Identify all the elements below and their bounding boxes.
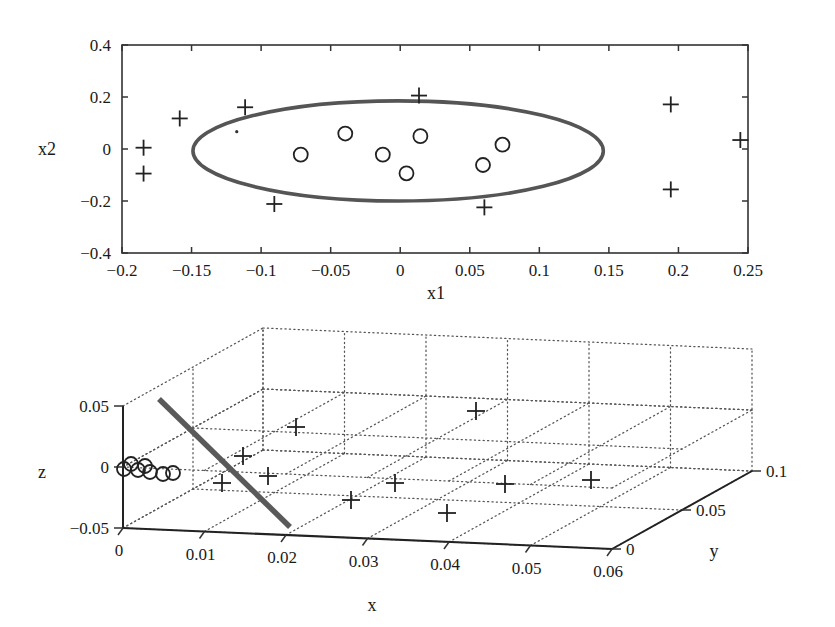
outlier-marker-plus-3d [342,491,360,509]
plot-frame [122,45,748,253]
y-tick-label-3d: 0 [626,540,635,559]
outlier-marker-plus [136,166,152,182]
z-tick-label-3d: 0.05 [79,397,109,416]
x-axis-tick-labels: −0.2−0.15−0.1−0.0500.050.10.150.20.25 [107,261,763,280]
x-tick-label-3d: 0.05 [512,559,542,578]
x-tick-label: −0.15 [172,261,211,280]
x-tick-label: 0.25 [733,261,763,280]
inlier-marker-circle [294,148,308,162]
y-axis-tick-labels: −0.4−0.200.20.4 [80,36,111,263]
x-tick-label: −0.05 [311,261,350,280]
y-tick-label: 0.4 [90,36,112,55]
x-tick-mark-3d [444,542,449,549]
y-tick-label: −0.2 [80,192,111,211]
x-tick-mark-3d [363,539,368,546]
x-tick-mark-3d [526,546,531,553]
data-markers [136,88,749,216]
x-tick-label: 0 [396,261,405,280]
outlier-marker-plus-3d [287,418,305,436]
x-axis-title: x1 [427,283,445,303]
y-axis-title: x2 [38,139,56,159]
grid-floor-line-x [531,468,671,546]
top-2d-scatter-plot: −0.2−0.15−0.1−0.0500.050.10.150.20.25 −0… [38,36,763,303]
x-tick-mark-3d [607,549,612,556]
outlier-marker-plus-3d [496,475,514,493]
y-tick-label: 0.2 [90,88,111,107]
inlier-marker-circle-3d [166,466,180,480]
inlier-marker-circle [495,138,509,152]
figure-container: −0.2−0.15−0.1−0.0500.050.10.150.20.25 −0… [0,0,835,627]
outlier-marker-plus-3d [386,474,404,492]
x-tick-label-3d: 0.02 [267,548,297,567]
z-tick-label-3d: 0 [101,458,110,477]
stray-dot-marker [235,130,238,133]
outlier-marker-plus-3d [467,402,485,420]
figure-canvas: −0.2−0.15−0.1−0.0500.050.10.150.20.25 −0… [0,0,835,627]
x-tick-mark-3d [281,535,286,542]
grid-3d [123,328,752,549]
outlier-marker-plus [237,99,253,115]
x-tick-label-3d: 0.04 [430,555,460,574]
z-tick-label-3d: −0.05 [70,519,109,538]
inlier-marker-circle [376,148,390,162]
axes-3d [123,406,752,549]
x-axis-tick-marks [122,45,748,253]
outlier-marker-plus [172,110,188,126]
x-axis-title-3d: x [368,595,377,615]
outlier-marker-plus [663,181,679,197]
x-tick-label: 0.2 [668,261,689,280]
x-tick-label-3d: 0.03 [349,552,379,571]
x-tick-mark-3d [118,528,123,535]
y-tick-label-3d: 0.05 [696,501,726,520]
x-tick-label: 0.05 [455,261,485,280]
projection-line [159,399,290,527]
inlier-marker-circle [399,166,413,180]
x-tick-label: 0.1 [529,261,550,280]
outlier-marker-plus [732,132,748,148]
outlier-marker-plus [136,140,152,156]
grid-floor-line-x [368,461,508,539]
x-tick-label: −0.2 [107,261,138,280]
x-tick-label-3d: 0.01 [186,545,216,564]
y-axis-tick-marks [122,45,748,253]
outlier-marker-plus-3d [259,467,277,485]
grid-midplane-line-x [531,407,671,485]
grid-midplane-line-x [368,400,508,478]
z-axis-title-3d: z [38,462,46,482]
grid-midplane-line-x [205,393,345,471]
outlier-marker-plus [266,196,282,212]
bottom-3d-scatter-plot: 00.010.020.030.040.050.0600.050.1−0.0500… [38,328,787,615]
y-tick-label: 0 [103,140,112,159]
outlier-marker-plus-3d [438,504,456,522]
x-tick-label-3d: 0 [115,541,124,560]
outlier-marker-plus [476,199,492,215]
x-tick-mark-3d [200,532,205,539]
y-tick-label: −0.4 [80,244,111,263]
outlier-marker-plus [663,96,679,112]
x-tick-label: −0.1 [246,261,277,280]
data-markers-3d [117,402,600,522]
inlier-marker-circle [413,129,427,143]
x-tick-label-3d: 0.06 [593,562,623,581]
inlier-marker-circle [476,158,490,172]
tolerance-ellipse-shape [193,101,603,201]
grid-leftwall-horizontal [123,328,263,406]
y-tick-label-3d: 0.1 [766,462,787,481]
x-tick-label: 0.15 [594,261,624,280]
tolerance-ellipse [193,101,603,201]
outlier-marker-plus-3d [234,447,252,465]
tick-labels-3d: 00.010.020.030.040.050.0600.050.1−0.0500… [70,397,788,581]
inlier-marker-circle [338,127,352,141]
y-axis-title-3d: y [710,541,719,561]
